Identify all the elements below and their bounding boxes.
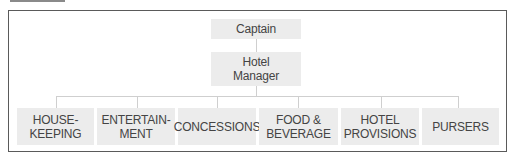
node-hotel-manager: Hotel Manager: [211, 52, 301, 86]
node-housekeeping: HOUSE- KEEPING: [17, 108, 94, 145]
connector-drop-pursers: [458, 96, 459, 108]
node-captain: Captain: [211, 19, 301, 39]
connector-drop-entertainment: [137, 96, 138, 108]
connector-horizontal-bus: [56, 96, 459, 97]
header-rule: [10, 0, 65, 2]
connector-drop-housekeeping: [56, 96, 57, 108]
connector-drop-concessions: [217, 96, 218, 108]
node-pursers: PURSERS: [422, 108, 499, 145]
connector-drop-hotel-provisions: [381, 96, 382, 108]
node-entertainment: ENTERTAIN- MENT: [97, 108, 175, 145]
connector-manager-bus: [256, 86, 257, 96]
node-food-beverage: FOOD & BEVERAGE: [259, 108, 338, 145]
node-hotel-provisions: HOTEL PROVISIONS: [341, 108, 419, 145]
connector-drop-food-beverage: [298, 96, 299, 108]
node-concessions: CONCESSIONS: [178, 108, 256, 145]
connector-captain-manager: [256, 39, 257, 52]
